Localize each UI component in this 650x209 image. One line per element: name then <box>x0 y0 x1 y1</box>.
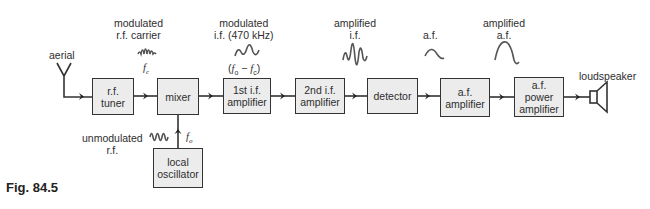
modulated-rf-label: modulated r.f. carrier <box>114 17 163 41</box>
amplified-if-wave-icon <box>343 44 367 65</box>
modulated-if-label: modulated i.f. (470 kHz) <box>214 17 274 41</box>
af-label: a.f. <box>423 29 438 41</box>
detector-block: detector <box>367 78 418 114</box>
aerial-label: aerial <box>49 49 75 61</box>
amplified-af-label: amplified a.f. <box>483 17 525 41</box>
modulated-rf-wave-icon <box>138 49 156 54</box>
amplified-if-label: amplified i.f. <box>334 17 376 41</box>
first-if-amplifier-block: 1st i.f. amplifier <box>223 78 271 114</box>
loudspeaker-icon <box>590 91 597 103</box>
aerial-icon <box>57 63 92 97</box>
unmodulated-rf-label: unmodulated r.f. <box>82 132 143 156</box>
second-if-amplifier-block: 2nd i.f. amplifier <box>295 78 345 114</box>
fc-label: fc <box>143 62 149 78</box>
fo-label: fo <box>186 131 192 147</box>
loudspeaker-label: loudspeaker <box>579 70 636 82</box>
amplified-af-wave-icon <box>495 42 519 64</box>
mixer-block: mixer <box>157 78 199 115</box>
af-amplifier-block: a.f. amplifier <box>440 78 490 117</box>
fo-minus-fc-label: (fo − fc) <box>228 62 260 79</box>
af-power-amplifier-block: a.f. power amplifier <box>514 77 564 117</box>
af-wave-icon <box>425 49 444 58</box>
unmodulated-rf-wave-icon <box>150 134 168 141</box>
figure-caption: Fig. 84.5 <box>6 180 58 195</box>
rf-tuner-block: r.f. tuner <box>92 78 134 115</box>
modulated-if-wave-icon <box>235 45 259 56</box>
local-oscillator-block: local oscillator <box>153 148 203 188</box>
